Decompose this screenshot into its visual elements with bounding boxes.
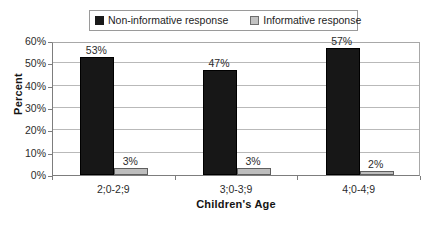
chart-legend: Non-informative response Informative res…: [89, 10, 358, 31]
legend-label-informative-response: Informative response: [263, 15, 361, 26]
bar-value-label: 53%: [79, 45, 113, 56]
y-axis-tick-label: 40%: [12, 81, 46, 91]
bar: [237, 168, 271, 175]
x-axis-title: Children's Age: [52, 198, 420, 210]
bar-chart-figure: Non-informative response Informative res…: [0, 0, 434, 225]
bar-value-label: 3%: [113, 156, 147, 167]
x-axis-tick-mark: [297, 176, 298, 180]
bar-value-label: 2%: [359, 159, 393, 170]
bar: [360, 171, 394, 175]
dark-swatch-icon: [95, 16, 104, 25]
bar-value-label: 57%: [325, 36, 359, 47]
x-axis-tick-label: 3;0-3;9: [191, 183, 281, 195]
y-axis-tick-label: 10%: [12, 148, 46, 158]
x-axis-tick-mark: [52, 176, 53, 180]
y-axis-tick-label: 30%: [12, 103, 46, 113]
bar: [326, 48, 360, 175]
bar-value-label: 47%: [202, 58, 236, 69]
legend-label-non-informative-response: Non-informative response: [108, 15, 228, 26]
y-axis-tick-label: 0%: [12, 170, 46, 180]
bar: [203, 70, 237, 175]
light-swatch-icon: [250, 16, 259, 25]
x-axis-tick-mark: [420, 176, 421, 180]
gridline: [53, 40, 419, 41]
y-axis-tick-label: 60%: [12, 36, 46, 46]
x-axis-tick-label: 4;0-4;9: [314, 183, 404, 195]
y-axis-tick-label: 50%: [12, 58, 46, 68]
legend-entry-informative-response: Informative response: [250, 15, 361, 26]
y-axis-title: Percent: [12, 64, 24, 124]
legend-entry-non-informative-response: Non-informative response: [95, 15, 228, 26]
bar-value-label: 3%: [236, 156, 270, 167]
y-axis-tick-label: 20%: [12, 125, 46, 135]
bar: [114, 168, 148, 175]
x-axis-tick-label: 2;0-2;9: [68, 183, 158, 195]
x-axis-tick-mark: [175, 176, 176, 180]
bar: [80, 57, 114, 175]
